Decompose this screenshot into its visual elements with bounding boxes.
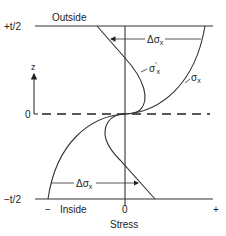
stress-distribution-diagram: +t/2 Outside z 0 −t/2 − Inside 0 + Stres… xyxy=(0,0,226,236)
sigma-x-prime-curve-lower xyxy=(105,114,155,199)
sigma-x-label: σx xyxy=(191,72,201,84)
x-minus-label: − xyxy=(45,204,51,215)
inside-label: Inside xyxy=(60,204,87,215)
z-axis-label: z xyxy=(31,62,36,72)
stress-axis-label: Stress xyxy=(110,219,138,230)
x-zero-label: 0 xyxy=(122,204,128,215)
top-surface-label: +t/2 xyxy=(4,21,21,32)
x-plus-label: + xyxy=(213,204,219,215)
bottom-surface-label: −t/2 xyxy=(4,194,21,205)
outside-label: Outside xyxy=(52,12,87,23)
midplane-label: 0 xyxy=(25,109,31,120)
sigma-x-prime-label: σ′x xyxy=(149,61,160,75)
